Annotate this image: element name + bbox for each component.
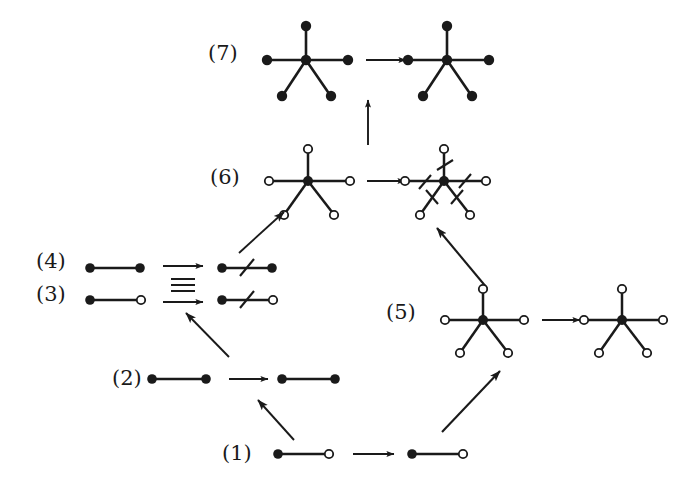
vertex-filled	[85, 295, 95, 305]
label-step-6: (6)	[210, 165, 240, 189]
row-1-right-graph	[407, 449, 467, 459]
vertex-leaf	[262, 55, 272, 65]
vertex-leaf-open	[265, 177, 273, 185]
vertex-leaf	[277, 91, 287, 101]
vertex-leaf	[442, 21, 452, 31]
vertex-leaf-open	[643, 349, 651, 357]
row-6-left-graph	[265, 145, 354, 219]
vertex-filled	[407, 449, 417, 459]
vertex-filled	[85, 263, 95, 273]
row-1-left-graph	[273, 449, 333, 459]
vertex-leaf-open	[520, 316, 528, 324]
row-4-right-graph	[217, 259, 277, 276]
diagram-svg	[0, 0, 680, 483]
arrow-1-to-5	[442, 371, 500, 432]
vertex-center	[478, 315, 488, 325]
row-7-left-graph	[262, 21, 353, 101]
vertex-leaf-open	[346, 177, 354, 185]
vertex-leaf-open	[440, 145, 448, 153]
vertex-filled	[330, 374, 340, 384]
vertex-leaf-open	[482, 177, 490, 185]
figure-canvas: (7) (6) (4) (3) (5) (2) (1)	[0, 0, 680, 483]
vertex-center	[301, 55, 311, 65]
vertex-leaf-open	[401, 177, 409, 185]
vertex-filled	[201, 374, 211, 384]
label-step-3: (3)	[36, 282, 66, 306]
vertex-leaf	[418, 91, 428, 101]
vertex-center	[303, 176, 313, 186]
vertex-leaf	[484, 55, 494, 65]
vertex-filled	[273, 449, 283, 459]
vertex-center	[442, 55, 452, 65]
vertex-leaf	[467, 91, 477, 101]
row-7-right-graph	[403, 21, 494, 101]
vertex-open	[137, 296, 145, 304]
vertex-leaf-open	[618, 285, 626, 293]
vertex-leaf-open	[659, 316, 667, 324]
label-step-5: (5)	[386, 300, 416, 324]
arrow-34-to-6	[239, 212, 284, 253]
vertex-leaf-open	[504, 349, 512, 357]
vertex-open	[459, 450, 467, 458]
arrow-2-to-34	[186, 313, 229, 357]
vertex-leaf-open	[580, 316, 588, 324]
vertex-leaf-open	[466, 211, 474, 219]
vertex-leaf	[301, 21, 311, 31]
label-step-1: (1)	[222, 441, 252, 465]
vertex-filled	[277, 374, 287, 384]
label-step-2: (2)	[112, 366, 142, 390]
row-2-left-graph	[147, 374, 211, 384]
row-2-right-graph	[277, 374, 340, 384]
vertex-leaf-open	[479, 285, 487, 293]
vertex-leaf	[343, 55, 353, 65]
vertex-leaf	[326, 91, 336, 101]
vertex-leaf-open	[441, 316, 449, 324]
vertex-filled	[147, 374, 157, 384]
vertex-filled	[267, 263, 277, 273]
label-step-7: (7)	[208, 41, 238, 65]
vertex-leaf-open	[595, 349, 603, 357]
vertex-leaf-open	[330, 211, 338, 219]
arrow-1-to-2	[258, 400, 294, 440]
vertex-open	[325, 450, 333, 458]
vertex-leaf-open	[416, 211, 424, 219]
vertex-center	[617, 315, 627, 325]
vertex-filled	[217, 295, 227, 305]
row-6-right-graph	[401, 145, 490, 219]
vertex-leaf	[403, 55, 413, 65]
vertex-leaf-open	[456, 349, 464, 357]
row-5-left-graph	[441, 285, 528, 357]
vertex-center	[439, 176, 449, 186]
arrow-5-to-6	[437, 228, 487, 288]
row-3-right-graph	[217, 291, 277, 308]
row-3-left-graph	[85, 295, 145, 305]
equivalence-bars-icon	[171, 279, 195, 291]
vertex-filled	[217, 263, 227, 273]
label-step-4: (4)	[36, 249, 66, 273]
row-4-left-graph	[85, 263, 145, 273]
vertex-open	[269, 296, 277, 304]
vertex-leaf-open	[304, 145, 312, 153]
row-5-right-graph	[580, 285, 667, 357]
vertex-filled	[135, 263, 145, 273]
